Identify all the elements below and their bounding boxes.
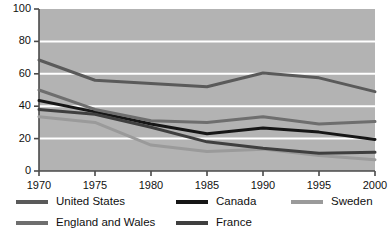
x-tick-label-1980: 1980: [126, 180, 176, 191]
y-tick-label-80: 80: [19, 35, 31, 46]
legend-swatch-england-and-wales: [16, 221, 48, 225]
x-tick-label-1985: 1985: [182, 180, 232, 191]
legend-label-canada: Canada: [216, 195, 256, 208]
legend-item-united-states[interactable]: United States: [16, 192, 125, 211]
plot-background-group: [39, 9, 375, 171]
y-tick-label-20: 20: [19, 133, 31, 144]
legend-item-canada[interactable]: Canada: [176, 192, 256, 211]
x-tick-label-1995: 1995: [294, 180, 344, 191]
legend-swatch-sweden: [291, 200, 323, 204]
y-tick-label-40: 40: [19, 100, 31, 111]
legend-label-united-states: United States: [56, 195, 125, 208]
y-tick-label-60: 60: [19, 68, 31, 79]
legend-item-sweden[interactable]: Sweden: [291, 192, 373, 211]
plot-background: [39, 9, 375, 171]
legend-item-england-and-wales[interactable]: England and Wales: [16, 213, 155, 232]
x-tick-label-1975: 1975: [70, 180, 120, 191]
legend-label-sweden: Sweden: [331, 195, 373, 208]
legend-item-france[interactable]: France: [176, 213, 252, 232]
legend-row-2: England and Wales France: [8, 213, 380, 232]
legend-label-france: France: [216, 216, 252, 229]
legend-label-england-and-wales: England and Wales: [56, 216, 155, 229]
y-tick-label-0: 0: [25, 165, 31, 176]
y-tick-label-100: 100: [13, 3, 31, 14]
x-tick-label-1970: 1970: [14, 180, 64, 191]
chart-legend: United States Canada Sweden England and …: [8, 192, 380, 234]
legend-row-1: United States Canada Sweden: [8, 192, 380, 211]
x-tick-label-1990: 1990: [238, 180, 288, 191]
x-tick-label-2000: 2000: [350, 180, 392, 191]
legend-swatch-france: [176, 221, 208, 225]
legend-swatch-canada: [176, 200, 208, 204]
legend-swatch-united-states: [16, 200, 48, 204]
